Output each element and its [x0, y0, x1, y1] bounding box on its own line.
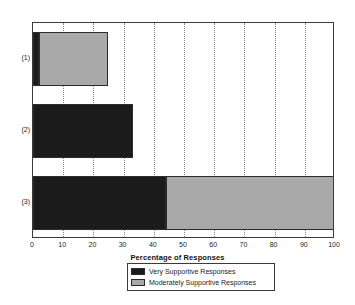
- x-axis-tick-label: 60: [201, 241, 225, 249]
- x-axis-tick-label: 70: [231, 241, 255, 249]
- legend-swatch-icon: [131, 268, 145, 275]
- bar-segment: [39, 32, 108, 86]
- bar-group: [33, 32, 334, 86]
- x-axis-tick-label: 0: [20, 241, 44, 249]
- x-axis-tick-label: 50: [171, 241, 195, 249]
- legend-label: Moderately Supportive Responses: [149, 279, 256, 287]
- legend-item: Very Supportive Responses: [131, 266, 271, 277]
- bar-segment: [33, 176, 166, 230]
- legend-swatch-icon: [131, 279, 145, 286]
- chart-figure: (1)(2)(3) 0102030405060708090100 Percent…: [0, 0, 355, 305]
- x-axis-tick-label: 80: [262, 241, 286, 249]
- legend-label: Very Supportive Responses: [149, 268, 235, 276]
- y-axis-tick-label: (2): [6, 126, 30, 134]
- x-axis-tick-label: 90: [292, 241, 316, 249]
- bar-segment: [166, 176, 334, 230]
- bar-group: [33, 176, 334, 230]
- chart-legend: Very Supportive ResponsesModerately Supp…: [127, 263, 275, 291]
- bar-group: [33, 104, 334, 158]
- x-axis-tick-label: 10: [50, 241, 74, 249]
- plot-area: [32, 22, 334, 238]
- legend-item: Moderately Supportive Responses: [131, 277, 271, 288]
- x-axis-tick-label: 100: [322, 241, 346, 249]
- x-axis-tick-label: 30: [111, 241, 135, 249]
- y-axis-tick-label: (3): [6, 198, 30, 206]
- x-axis-tick-label: 40: [141, 241, 165, 249]
- x-axis-tick-label: 20: [80, 241, 104, 249]
- y-axis-tick-label: (1): [6, 54, 30, 62]
- x-axis-title: Percentage of Responses: [0, 253, 355, 262]
- bar-segment: [33, 104, 133, 158]
